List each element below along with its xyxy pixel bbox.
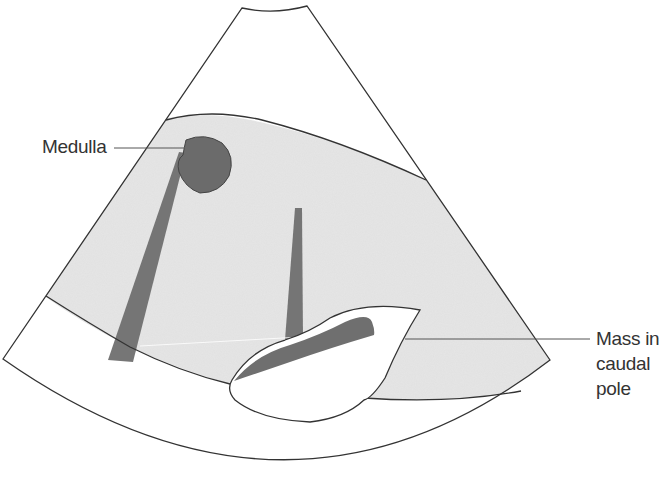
- mass-label-line1: Mass in: [596, 326, 659, 351]
- medulla: [178, 137, 231, 193]
- mass-label-line3: pole: [596, 376, 659, 401]
- mass-label-line2: caudal: [596, 351, 659, 376]
- mass-label: Mass in caudal pole: [596, 326, 659, 401]
- medulla-label: Medulla: [42, 134, 106, 159]
- ultrasound-diagram: [0, 0, 672, 480]
